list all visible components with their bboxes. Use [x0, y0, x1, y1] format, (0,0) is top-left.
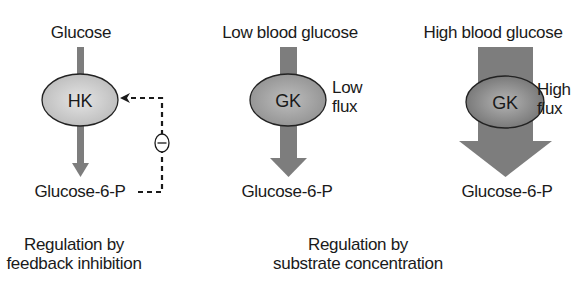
feedback-arrowhead	[120, 93, 130, 103]
flux-label-low-line1: Low	[332, 79, 362, 96]
enzyme-label-gk-high: GK	[492, 94, 517, 112]
enzyme-label-gk-low: GK	[275, 92, 300, 110]
substrate-label-glucose: Glucose	[51, 24, 111, 41]
flux-label-low-line2: flux	[332, 98, 357, 115]
product-label-high: Glucose-6-P	[461, 183, 552, 200]
minus-icon	[155, 134, 169, 152]
flux-label-high-line2: flux	[537, 100, 562, 117]
caption-substrate: Regulation by substrate concentration	[273, 235, 443, 273]
caption-substrate-line1: Regulation by	[273, 235, 443, 254]
caption-substrate-line2: substrate concentration	[273, 254, 443, 273]
caption-feedback-line1: Regulation by	[6, 235, 141, 254]
enzyme-label-hk: HK	[68, 92, 92, 110]
product-label-hk: Glucose-6-P	[34, 183, 125, 200]
flux-label-high-line1: High	[537, 81, 571, 98]
caption-feedback: Regulation by feedback inhibition	[6, 235, 141, 273]
substrate-label-low: Low blood glucose	[222, 24, 358, 41]
product-label-low: Glucose-6-P	[241, 183, 332, 200]
substrate-label-high: High blood glucose	[423, 24, 562, 41]
caption-feedback-line2: feedback inhibition	[6, 254, 141, 273]
